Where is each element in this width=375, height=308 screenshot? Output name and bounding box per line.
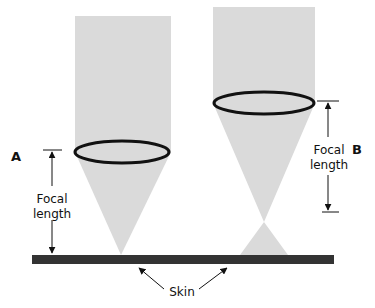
focal-length-diagram: A B Focal length Focal length Skin xyxy=(0,0,375,308)
skin-surface xyxy=(32,255,334,264)
beam-a xyxy=(75,16,171,255)
skin-label: Skin xyxy=(169,285,195,299)
skin-arrow-right xyxy=(199,268,227,289)
focal-b-label-line2: length xyxy=(310,158,348,172)
focal-a-label-line2: length xyxy=(33,207,71,221)
focal-b-label-line1: Focal xyxy=(313,143,344,157)
beam-b xyxy=(213,7,315,255)
focal-a-label-line1: Focal xyxy=(36,192,67,206)
label-b: B xyxy=(352,142,362,157)
skin-arrow-left xyxy=(139,268,164,289)
label-a: A xyxy=(11,149,21,164)
